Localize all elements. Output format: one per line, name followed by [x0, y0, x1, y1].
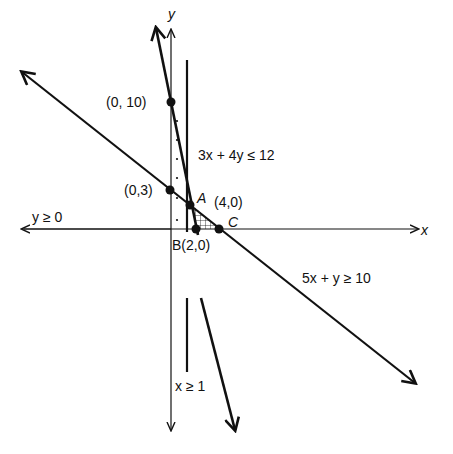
x-axis-label: x — [420, 222, 429, 238]
linear-programming-graph: y x (0, 10) (0,3) A (4,0) B(2,0) C 3x + … — [0, 0, 453, 454]
label-constraint-5x-y: 5x + y ≥ 10 — [302, 270, 371, 286]
label-point-B: B(2,0) — [172, 237, 210, 253]
label-point-0-10: (0, 10) — [106, 94, 146, 110]
point-B — [192, 225, 201, 234]
label-constraint-x-ge-1: x ≥ 1 — [175, 378, 205, 394]
label-point-4-0: (4,0) — [214, 194, 243, 210]
point-A — [186, 201, 195, 210]
line-3x-plus-4y-right — [171, 190, 415, 383]
line-3x-plus-4y — [22, 72, 171, 190]
line-5x-plus-y-lower — [201, 298, 235, 430]
label-constraint-3x-4y: 3x + 4y ≤ 12 — [198, 147, 275, 163]
label-point-C: C — [228, 214, 239, 230]
point-0-10 — [167, 98, 176, 107]
label-point-A: A — [196, 190, 206, 206]
y-axis-label: y — [167, 6, 176, 22]
label-point-0-3: (0,3) — [124, 182, 153, 198]
point-0-3 — [166, 186, 175, 195]
label-constraint-y-ge-0: y ≥ 0 — [32, 209, 62, 225]
point-C — [215, 225, 224, 234]
